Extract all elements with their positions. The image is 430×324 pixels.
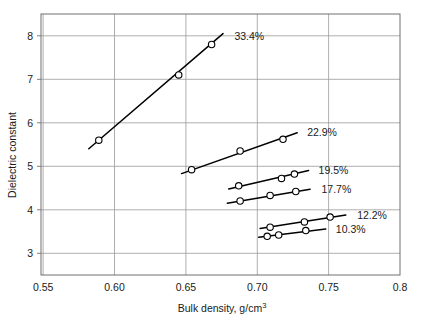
x-tick-label: 0.70	[247, 281, 268, 293]
data-point-marker	[327, 214, 333, 220]
data-point-marker	[208, 41, 214, 47]
y-tick-label: 7	[27, 73, 33, 85]
series-label-17-7pct: 17.7%	[322, 183, 352, 195]
data-point-marker	[236, 183, 242, 189]
series-label-12-2pct: 12.2%	[357, 209, 387, 221]
data-point-marker	[96, 137, 102, 143]
data-point-marker	[267, 192, 273, 198]
data-point-marker	[276, 232, 282, 238]
y-tick-label: 6	[27, 117, 33, 129]
data-point-marker	[188, 167, 194, 173]
y-tick-label: 5	[27, 160, 33, 172]
data-point-marker	[301, 219, 307, 225]
y-axis-title: Dielectric constant	[6, 112, 18, 198]
data-point-marker	[293, 188, 299, 194]
series-label-10-3pct: 10.3%	[336, 223, 366, 235]
x-axis-title: Bulk density, g/cm3	[178, 301, 267, 314]
chart-figure: 0.550.600.650.700.750.8 345678 33.4%22.9…	[0, 0, 430, 324]
x-tick-label: 0.8	[393, 281, 408, 293]
data-point-marker	[303, 227, 309, 233]
x-tick-label: 0.65	[176, 281, 197, 293]
data-point-marker	[264, 233, 270, 239]
x-tick-label: 0.60	[104, 281, 125, 293]
series-label-22-9pct: 22.9%	[307, 126, 337, 138]
data-point-marker	[176, 72, 182, 78]
data-point-marker	[237, 148, 243, 154]
x-tick-label: 0.55	[33, 281, 54, 293]
y-tick-label: 3	[27, 247, 33, 259]
data-point-marker	[267, 224, 273, 230]
data-point-marker	[278, 175, 284, 181]
series-label-19-5pct: 19.5%	[319, 164, 349, 176]
data-point-marker	[280, 136, 286, 142]
y-tick-label: 8	[27, 30, 33, 42]
series-label-33-4pct: 33.4%	[234, 30, 264, 42]
data-point-marker	[237, 198, 243, 204]
x-tick-label: 0.75	[318, 281, 339, 293]
y-tick-label: 4	[27, 204, 33, 216]
dielectric-constant-vs-bulk-density-chart: 0.550.600.650.700.750.8 345678 33.4%22.9…	[0, 0, 430, 324]
data-point-marker	[291, 171, 297, 177]
